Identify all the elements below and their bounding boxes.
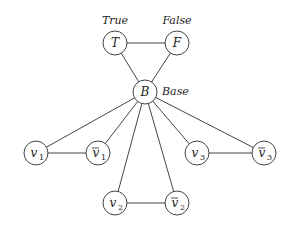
nodes-layer: TTrueFFalseBBasev1v1v3v3v2v2 xyxy=(24,14,276,215)
node-label: F xyxy=(172,36,182,50)
node-T: TTrue xyxy=(102,14,129,55)
node-subscript: 1 xyxy=(101,153,106,162)
edge-B-v2bar xyxy=(145,92,177,203)
node-subscript: 1 xyxy=(39,153,44,162)
node-caption-T: True xyxy=(102,14,129,27)
edges-layer xyxy=(36,43,264,203)
node-label: v xyxy=(110,196,117,210)
node-v1: v1 xyxy=(24,141,48,165)
node-v1bar: v1 xyxy=(86,141,110,165)
node-v2bar: v2 xyxy=(165,191,189,215)
node-v3: v3 xyxy=(185,141,209,165)
node-label: T xyxy=(111,36,120,50)
node-subscript: 2 xyxy=(180,203,185,212)
node-caption-B: Base xyxy=(161,85,189,98)
node-label: v xyxy=(31,146,38,160)
node-F: FFalse xyxy=(161,14,192,55)
node-v3bar: v3 xyxy=(252,141,276,165)
edge-B-v2 xyxy=(115,92,145,203)
node-subscript: 2 xyxy=(118,203,123,212)
node-subscript: 3 xyxy=(267,153,272,162)
node-label: v xyxy=(192,146,199,160)
node-label: B xyxy=(140,85,150,99)
node-caption-F: False xyxy=(161,14,192,27)
graph-diagram: TTrueFFalseBBasev1v1v3v3v2v2 xyxy=(0,0,291,226)
node-subscript: 3 xyxy=(200,153,205,162)
node-v2: v2 xyxy=(103,191,127,215)
